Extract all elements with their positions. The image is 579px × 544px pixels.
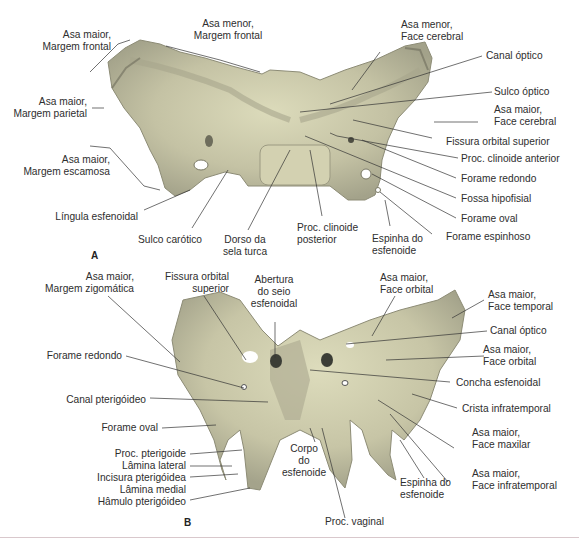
label-asa-menor-face-cerebral: Asa menor, Face cerebral (401, 19, 463, 43)
label-fissura-orbital-superior-b: Fissura orbital superior (155, 271, 229, 295)
label-fissura-orbital-superior-a: Fissura orbital superior (446, 136, 550, 148)
label-hamulo-pterigoideo: Hâmulo pterigóideo (60, 496, 186, 508)
label-sulco-carotico: Sulco carótico (138, 234, 202, 246)
label-proc-vaginal: Proc. vaginal (325, 516, 384, 528)
label-asa-maior-margem-escamosa: Asa maior, Margem escamosa (8, 154, 110, 178)
label-asa-maior-face-maxilar: Asa maior, Face maxilar (472, 427, 530, 451)
label-espinha-esfenoide-a: Espinha do esfenoide (372, 233, 423, 257)
label-forame-oval-a: Forame oval (461, 213, 518, 225)
label-espinha-esfenoide-b: Espinha do esfenoide (400, 477, 451, 501)
label-incisura-pterigoidea: Incisura pterigóidea (60, 472, 186, 484)
label-asa-menor-margem-frontal: Asa menor, Margem frontal (188, 18, 268, 42)
label-asa-maior-margem-parietal: Asa maior, Margem parietal (5, 96, 87, 120)
panel-b-letter: B (184, 517, 191, 528)
label-asa-maior-margem-zigomatica: Asa maior, Margem zigomática (38, 271, 134, 295)
label-abertura-seio-esfenoidal: Abertura do seio esfenoidal (245, 274, 303, 310)
label-canal-optico-b: Canal óptico (490, 325, 547, 337)
label-asa-maior-face-orbital-top: Asa maior, Face orbital (380, 272, 433, 296)
label-forame-redondo-b: Forame redondo (30, 350, 122, 362)
label-concha-esfenoidal: Concha esfenoidal (456, 377, 540, 389)
label-asa-maior-margem-frontal-a: Asa maior, Margem frontal (38, 29, 111, 53)
label-forame-espinhoso: Forame espinhoso (446, 231, 530, 243)
label-lamina-lateral: Lâmina lateral (60, 460, 186, 472)
label-dorso-sela-turca: Dorso da sela turca (214, 234, 276, 258)
label-asa-maior-face-cerebral: Asa maior, Face cerebral (494, 104, 556, 128)
label-crista-infratemporal: Crista infratemporal (462, 403, 551, 415)
label-lamina-medial: Lâmina medial (60, 484, 186, 496)
label-proc-clinoide-posterior: Proc. clinoide posterior (297, 222, 358, 246)
label-asa-maior-face-orbital: Asa maior, Face orbital (483, 344, 536, 368)
panel-a-bone (108, 40, 432, 200)
label-asa-maior-face-infratemporal: Asa maior, Face infratemporal (472, 468, 557, 492)
label-fossa-hipofisial: Fossa hipofisial (461, 193, 531, 205)
bottom-divider (0, 537, 579, 538)
panel-a-letter: A (91, 250, 98, 261)
label-forame-oval-b: Forame oval (60, 422, 158, 434)
label-asa-maior-face-temporal: Asa maior, Face temporal (488, 289, 553, 313)
label-canal-pterigoideo: Canal pterigóideo (30, 394, 146, 406)
label-forame-redondo-a: Forame redondo (461, 173, 536, 185)
label-sulco-optico: Sulco óptico (494, 86, 550, 98)
label-corpo-esfenoide: Corpo do esfenoide (278, 443, 330, 479)
label-lingula-esfenoidal: Língula esfenoidal (38, 211, 138, 223)
label-proc-pterigoide: Proc. pterigoide (60, 448, 186, 460)
label-proc-clinoide-anterior: Proc. clinoide anterior (461, 153, 560, 165)
label-canal-optico-a: Canal óptico (486, 50, 543, 62)
